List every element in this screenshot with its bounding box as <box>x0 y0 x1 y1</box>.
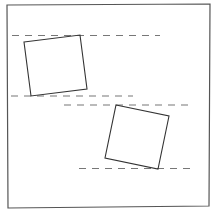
diagram-canvas <box>0 0 216 216</box>
square-lower-right <box>105 105 169 169</box>
square-upper-left <box>24 35 87 96</box>
outer-frame <box>7 4 210 208</box>
